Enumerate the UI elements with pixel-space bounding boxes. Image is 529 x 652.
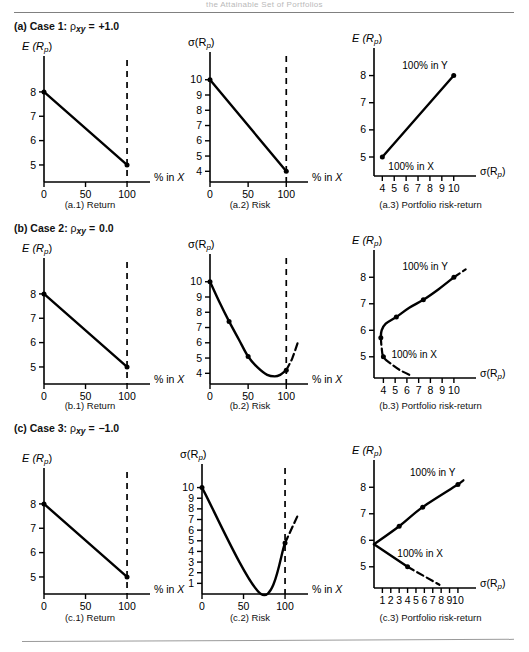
y-axis-name: E (Rp) — [22, 452, 52, 466]
data-point-marker — [227, 319, 232, 324]
y-axis-name-e: E (R — [22, 452, 44, 464]
y-axis-name-sigma: σ(R — [188, 36, 206, 48]
series-path — [374, 485, 458, 545]
y-tick-label: 6 — [30, 336, 36, 348]
x-axis-name-pct: % in — [312, 583, 335, 595]
y-axis-name: E (Rp) — [352, 234, 382, 248]
series-path — [408, 567, 440, 585]
chart-b2-svg: 45678910050100σ(Rp)% in X — [170, 238, 345, 403]
y-tick-label: 4 — [196, 367, 202, 379]
caption-a1: (a.1) Return — [10, 199, 170, 210]
x-tick-label: 2 — [388, 594, 394, 606]
data-point-marker — [421, 297, 426, 302]
x-tick-label: 10 — [452, 594, 464, 606]
chart-a2-svg: 45678910050100σ(Rp)% in X — [170, 36, 345, 201]
x-tick-label: 4 — [380, 384, 386, 396]
x-tick-label: 10 — [448, 384, 460, 396]
chart-a3-svg: 567845678910100% in Y100% in XE (Rp)σ(Rp… — [338, 36, 528, 201]
data-point-marker — [208, 279, 213, 284]
x-tick-label: 0 — [199, 600, 205, 612]
y-axis-name: σ(Rp) — [180, 448, 207, 462]
y-tick-label: 5 — [30, 159, 36, 171]
x-tick-label: 5 — [391, 182, 397, 194]
series-path — [44, 294, 127, 367]
point-annotation: 100% in X — [391, 349, 437, 360]
chart-c2-svg: 12345678910050100σ(Rp)% in X — [170, 438, 345, 613]
point-annotation: 100% in Y — [410, 467, 456, 478]
y-axis-name-close: ) — [48, 40, 52, 52]
y-axis-name-e: E (R — [22, 40, 44, 52]
data-point-marker — [42, 89, 47, 94]
x-tick-label: 8 — [427, 384, 433, 396]
case-c-equals: = — [88, 422, 95, 434]
y-tick-label: 6 — [188, 524, 194, 536]
x-axis-name-close: ) — [502, 367, 506, 379]
y-tick-label: 5 — [30, 571, 36, 583]
data-point-marker — [380, 155, 385, 160]
series-path — [286, 343, 297, 370]
case-b-rho-subscript: xy — [77, 226, 86, 236]
caption-b3: (b.3) Portfolio risk-return — [338, 400, 523, 411]
y-axis-name-close: ) — [211, 238, 215, 250]
y-tick-label: 7 — [188, 513, 194, 525]
y-tick-label: 3 — [188, 556, 194, 568]
data-point-marker — [246, 354, 251, 359]
series-path — [44, 504, 127, 577]
y-tick-label: 8 — [30, 288, 36, 300]
case-a-rho-subscript: xy — [76, 24, 85, 34]
x-tick-label: 50 — [80, 600, 92, 612]
x-tick-label: 1 — [379, 594, 385, 606]
point-annotation: 100% in Y — [402, 261, 448, 272]
y-axis-name: σ(Rp) — [188, 238, 215, 252]
x-tick-label: 9 — [439, 182, 445, 194]
x-tick-label: 50 — [238, 600, 250, 612]
x-tick-label: 7 — [430, 594, 436, 606]
chart-a1: 5678050100E (Rp)% in X — [10, 36, 185, 201]
y-axis-name-e: E (R — [22, 242, 44, 254]
y-axis-name: σ(Rp) — [188, 36, 215, 50]
y-tick-label: 6 — [360, 534, 366, 546]
y-axis-name-close: ) — [378, 32, 382, 44]
case-heading-b: (b) Case 2: ρxy = 0.0 — [14, 222, 114, 236]
point-annotation: 100% in Y — [402, 60, 448, 71]
y-axis-name-close: ) — [211, 36, 215, 48]
y-axis-name-close: ) — [378, 444, 382, 456]
data-point-marker — [125, 364, 130, 369]
y-tick-label: 8 — [360, 69, 366, 81]
x-tick-label: 5 — [392, 384, 398, 396]
x-tick-label: 100 — [118, 600, 136, 612]
x-tick-label: 9 — [439, 384, 445, 396]
chart-b3-svg: 567845678910100% in Y100% in XE (Rp)σ(Rp… — [338, 238, 528, 403]
series-path — [454, 269, 466, 277]
y-tick-label: 6 — [196, 134, 202, 146]
y-tick-label: 5 — [360, 151, 366, 163]
x-axis-name-close: ) — [502, 165, 506, 177]
x-tick-label: 10 — [448, 182, 460, 194]
case-c-label: (c) Case 3: — [14, 422, 67, 434]
x-tick-label: 6 — [404, 384, 410, 396]
y-tick-label: 4 — [196, 165, 202, 177]
y-tick-label: 5 — [196, 150, 202, 162]
chart-b1-svg: 5678050100E (Rp)% in X — [10, 238, 185, 403]
y-axis-name: E (Rp) — [22, 242, 52, 256]
y-axis-name-e: E (R — [352, 32, 374, 44]
x-tick-label: 3 — [396, 594, 402, 606]
y-tick-label: 2 — [188, 566, 194, 578]
x-axis-name-sigma: σ(R — [480, 367, 498, 379]
y-tick-label: 10 — [190, 73, 202, 85]
chart-c3-svg: 567812345678910100% in Y100% in XE (Rp)σ… — [338, 438, 528, 613]
caption-b1: (b.1) Return — [10, 400, 170, 411]
series-path — [44, 92, 127, 165]
y-tick-label: 8 — [30, 86, 36, 98]
caption-c1: (c.1) Return — [10, 612, 170, 623]
series-path — [210, 282, 286, 377]
data-point-marker — [381, 354, 386, 359]
x-tick-label: 7 — [415, 182, 421, 194]
data-point-marker — [394, 315, 399, 320]
x-axis-name: σ(Rp) — [480, 577, 506, 591]
y-axis-name-e: E (R — [352, 234, 374, 246]
y-tick-label: 5 — [196, 352, 202, 364]
y-axis-name: E (Rp) — [352, 32, 382, 46]
top-rule — [14, 12, 514, 13]
caption-a3: (a.3) Portfolio risk-return — [338, 199, 523, 210]
